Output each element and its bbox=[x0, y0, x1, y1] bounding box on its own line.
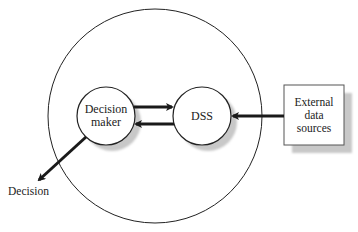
decision-maker-label: Decision maker bbox=[77, 103, 135, 129]
external-data-sources-label: External data sources bbox=[284, 96, 344, 135]
external-label-line-3: sources bbox=[284, 122, 344, 135]
decision-output-label: Decision bbox=[8, 185, 56, 198]
dss-label-line-1: DSS bbox=[173, 110, 231, 123]
external-label-line-1: External bbox=[284, 96, 344, 109]
decision-output-text: Decision bbox=[8, 185, 56, 198]
external-label-line-2: data bbox=[284, 109, 344, 122]
arrow-decision-maker-to-decision bbox=[39, 137, 86, 180]
dss-label: DSS bbox=[173, 110, 231, 123]
decision-maker-label-line-2: maker bbox=[77, 116, 135, 129]
